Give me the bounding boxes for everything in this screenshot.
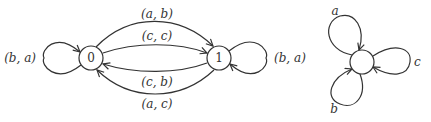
state-label-1: 1 [215,51,223,65]
edge-0-self-loop [43,42,81,73]
edge-label-0-1-cc: (c, c) [142,29,173,43]
edge-s-self-loop-a [329,15,362,55]
right-automaton: a c b [329,4,421,116]
state-label-0: 0 [87,51,95,65]
state-node-1: 1 [207,46,231,70]
edge-label-s-c: c [414,55,421,69]
state-node-s [350,50,374,74]
edge-label-1-self: (b, a) [274,51,306,65]
edge-label-s-a: a [331,4,338,18]
edge-label-1-0-cb: (c, b) [141,75,173,89]
edge-1-0-cb [103,63,207,71]
edge-label-0-self: (b, a) [4,51,36,65]
left-automaton: (b, a) (a, b) (c, c) (c, b) (a, c) (b, a… [4,7,306,111]
diagram-canvas: (b, a) (a, b) (c, c) (c, b) (a, c) (b, a… [0,0,431,122]
edge-s-self-loop-b [331,69,362,105]
edge-label-s-b: b [330,102,338,116]
edge-s-self-loop-c [373,48,410,74]
state-node-0: 0 [79,46,103,70]
edge-label-0-1-ab: (a, b) [141,7,173,21]
edge-1-self-loop [229,42,267,73]
edge-label-1-0-ac: (a, c) [142,97,173,111]
edge-0-1-cc [103,45,207,53]
